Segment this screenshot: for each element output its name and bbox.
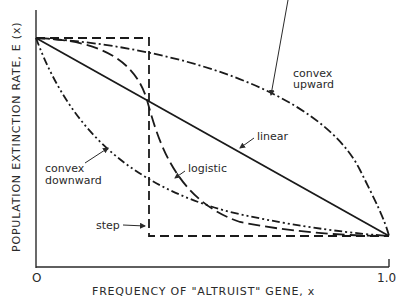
label-step: step <box>96 219 120 232</box>
arrow-linear <box>240 138 254 148</box>
axes <box>36 10 389 268</box>
label-linear: linear <box>257 130 289 143</box>
arrow-convex-downward <box>85 148 108 163</box>
y-axis-label: POPULATION EXTINCTION RATE, E (x) <box>10 22 23 252</box>
x-axis-label: FREQUENCY OF "ALTRUIST" GENE, x <box>92 285 315 298</box>
arrow-convex-upward <box>271 0 288 95</box>
arrow-step <box>123 225 145 226</box>
label-convex-upward-2: upward <box>293 78 334 91</box>
x-tick-0: O <box>32 271 41 285</box>
label-convex-downward-2: downward <box>45 174 102 187</box>
x-tick-1: 1.0 <box>377 271 396 285</box>
label-logistic: logistic <box>188 162 227 175</box>
chart: convex upward linear logistic convex dow… <box>0 0 403 302</box>
